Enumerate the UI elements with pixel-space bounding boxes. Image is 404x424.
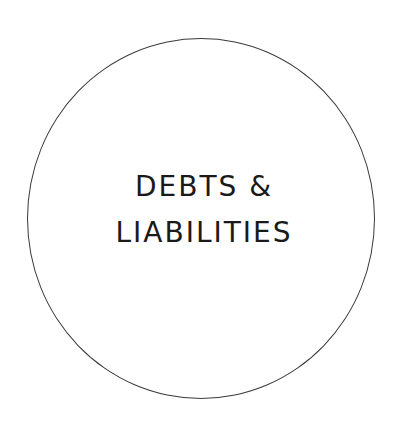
category-title-line-1: DEBTS &	[0, 173, 404, 201]
category-title-line-2: LIABILITIES	[0, 219, 404, 247]
